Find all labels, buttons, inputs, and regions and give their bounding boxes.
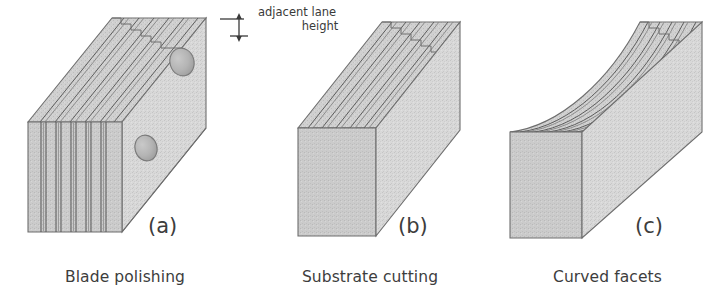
annotation-line-2: height: [258, 20, 408, 34]
panel-blade-polishing: (a) Blade polishing: [0, 0, 250, 290]
caption-substrate-cutting: Substrate cutting: [250, 268, 490, 286]
panel-letter-c: (c): [635, 214, 663, 238]
panel-letter-a: (a): [148, 214, 177, 238]
panel-curved-facets: (c) Curved facets: [490, 0, 725, 290]
annotation-line-1: adjacent lane: [258, 6, 408, 20]
substrate-end-face: [298, 128, 376, 236]
panel-letter-b: (b): [398, 214, 428, 238]
curved-facet-block: [510, 22, 702, 238]
curved-end-face: [510, 132, 582, 238]
annotation-adjacent-lane-height: adjacent lane height: [258, 6, 408, 33]
panel-b-illustration: [250, 0, 490, 250]
blade-stack: [28, 18, 206, 232]
caption-blade-polishing: Blade polishing: [0, 268, 250, 286]
panel-substrate-cutting: (b) Substrate cutting: [250, 0, 490, 290]
figure-root: (a) Blade polishing: [0, 0, 725, 290]
panel-a-illustration: [0, 0, 250, 250]
substrate-block: [298, 22, 460, 236]
panel-c-illustration: [490, 0, 725, 250]
caption-curved-facets: Curved facets: [490, 268, 725, 286]
